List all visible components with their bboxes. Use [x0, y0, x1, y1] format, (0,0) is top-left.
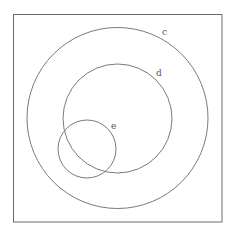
venn-diagram: c d e — [0, 0, 231, 233]
universe-frame — [14, 15, 223, 223]
set-c-circle — [27, 28, 208, 209]
set-d-circle — [63, 64, 172, 173]
set-e-label: e — [111, 121, 116, 131]
set-d-label: d — [156, 68, 162, 78]
set-c-label: c — [162, 27, 167, 37]
set-e-circle — [58, 120, 116, 178]
